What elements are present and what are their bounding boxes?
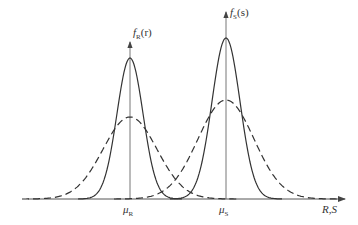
- distribution-plot: [0, 0, 358, 225]
- x-axis-label: R,S: [322, 203, 337, 215]
- curves: [22, 38, 338, 199]
- fS-label: fS(s): [230, 6, 249, 21]
- fR-label: fR(r): [133, 26, 152, 41]
- muS-label: μS: [219, 203, 228, 218]
- muR-label: μR: [123, 203, 133, 218]
